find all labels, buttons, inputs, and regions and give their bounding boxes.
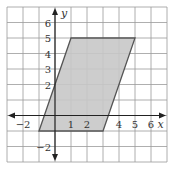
x-tick-label: 5: [132, 119, 138, 130]
x-tick-label: 1: [68, 119, 74, 130]
y-tick-label: 4: [45, 49, 51, 60]
y-tick-label: 3: [45, 64, 51, 75]
coordinate-plane: −21245665432−2xy: [0, 0, 175, 170]
x-tick-label: 4: [116, 119, 122, 130]
y-tick-label: 2: [45, 80, 51, 91]
arrow-left-icon: [8, 113, 15, 119]
x-axis-label: x: [157, 118, 164, 131]
y-tick-label: −2: [36, 142, 51, 153]
x-tick-label: −2: [16, 119, 31, 130]
y-tick-label: 6: [45, 18, 51, 29]
x-tick-label: 6: [148, 119, 154, 130]
y-tick-label: 5: [45, 33, 51, 44]
x-tick-label: 2: [84, 119, 90, 130]
arrow-down-icon: [52, 154, 58, 161]
y-axis-label: y: [60, 7, 68, 20]
arrow-up-icon: [52, 8, 58, 15]
